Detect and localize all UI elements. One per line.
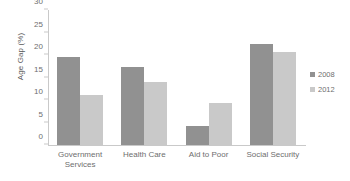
bar-group (121, 10, 167, 145)
bar-2008 (250, 44, 273, 145)
bar-2012 (144, 82, 167, 145)
legend-swatch-icon (310, 72, 315, 77)
bar-group (250, 10, 296, 145)
bar-group (57, 10, 103, 145)
y-axis-tick-mark (44, 31, 48, 32)
y-axis-tick-label: 15 (34, 64, 48, 73)
y-axis-tick-label: 0 (39, 132, 48, 141)
y-axis-tick-mark (44, 9, 48, 10)
x-axis-label: Social Security (241, 150, 305, 160)
y-axis-tick-label: 30 (34, 0, 48, 6)
bar-2012 (209, 103, 232, 145)
bar-2008 (186, 126, 209, 145)
legend-label: 2012 (318, 85, 335, 94)
bar-group (186, 10, 232, 145)
y-axis-tick-label: 10 (34, 87, 48, 96)
bar-2008 (121, 67, 144, 145)
bar-2012 (80, 95, 103, 145)
bar-2008 (57, 57, 80, 145)
bar-2012 (273, 52, 296, 145)
bar-chart: Age Gap (%) 051015202530 Government Serv… (0, 0, 350, 181)
y-axis-tick-mark (44, 99, 48, 100)
y-axis-tick-mark (44, 54, 48, 55)
legend: 20082012 (310, 70, 335, 100)
y-axis-tick-label: 25 (34, 19, 48, 28)
y-axis-tick-mark (44, 76, 48, 77)
x-axis-label: Health Care (112, 150, 176, 160)
x-axis-label: Aid to Poor (177, 150, 241, 160)
legend-swatch-icon (310, 87, 315, 92)
plot-area: 051015202530 (48, 10, 305, 145)
legend-item[interactable]: 2008 (310, 70, 335, 79)
y-axis-title: Age Gap (%) (16, 7, 25, 107)
y-axis-tick-mark (44, 144, 48, 145)
y-axis-tick-label: 5 (39, 109, 48, 118)
y-axis-tick-mark (44, 121, 48, 122)
legend-label: 2008 (318, 70, 335, 79)
y-axis-tick-label: 20 (34, 42, 48, 51)
legend-item[interactable]: 2012 (310, 85, 335, 94)
x-axis-label: Government Services (48, 150, 112, 170)
x-axis-line (48, 145, 306, 146)
